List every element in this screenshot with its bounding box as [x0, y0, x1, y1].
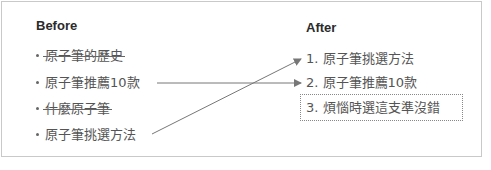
- connection-arrows: [0, 0, 491, 170]
- arrow-line-selection: [152, 59, 301, 134]
